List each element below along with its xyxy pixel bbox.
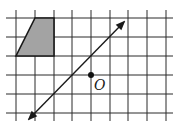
point-o-label: O: [94, 78, 105, 92]
grid-diagram: [0, 0, 179, 126]
